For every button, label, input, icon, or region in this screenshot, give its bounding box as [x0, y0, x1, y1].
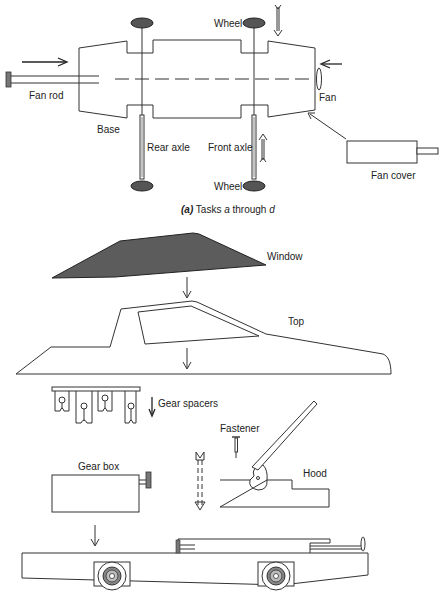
gear-box-body: [52, 475, 139, 512]
fastener-part: Fastener: [220, 423, 260, 458]
label-fan-rod: Fan rod: [29, 90, 63, 101]
fan-cover: [347, 141, 438, 163]
fan-rod-knob: [6, 72, 11, 87]
arrow-down-window: [183, 277, 191, 298]
rear-wheel-bottom: [131, 181, 153, 191]
label-fan-cover: Fan cover: [371, 170, 416, 181]
gear-box-knob: [146, 472, 151, 488]
fan-rod: [6, 72, 99, 87]
car-wheel-front: [258, 562, 294, 590]
car-wheel-rear: [94, 562, 130, 590]
label-rear-axle: Rear axle: [147, 142, 190, 153]
label-fastener: Fastener: [220, 423, 260, 434]
front-wheel-bottom: [243, 181, 265, 191]
front-wheel-top: [243, 18, 265, 28]
arrow-down-gear-spacers: [149, 397, 155, 416]
car-fan-icon: [361, 537, 365, 551]
label-gear-box: Gear box: [78, 461, 119, 472]
arrow-left-fan: [321, 60, 342, 68]
label-window: Window: [267, 251, 303, 262]
arrow-up-front-axle: [259, 134, 267, 162]
window-shape: [52, 233, 266, 278]
top-window-opening: [138, 306, 259, 344]
label-top: Top: [288, 316, 305, 327]
label-front-axle: Front axle: [208, 142, 253, 153]
window-part: Window: [52, 233, 303, 298]
label-wheel-top: Wheel: [214, 18, 242, 29]
gear-spacers-part: Gear spacers: [52, 387, 218, 423]
fan-icon: [317, 68, 322, 90]
arrow-right-fan-rod: [22, 58, 67, 66]
base-assembly: Fan rod Base Rear axle Front axle Wheel …: [6, 5, 438, 215]
arrow-down-wheel: [274, 5, 282, 36]
hood-arm: [252, 401, 317, 470]
car-chassis: [22, 553, 368, 585]
arrow-down-top: [183, 348, 191, 369]
assembled-car: [22, 537, 368, 590]
arrow-down-hollow-center: [195, 452, 205, 510]
arrow-fan-cover: [308, 113, 346, 139]
caption-part-a: (a) Tasks a through d: [181, 204, 275, 215]
arrow-down-gear-box: [91, 525, 99, 546]
top-part: Top: [16, 301, 391, 374]
diagram-canvas: Fan rod Base Rear axle Front axle Wheel …: [0, 0, 440, 600]
caption-letter: (a): [181, 204, 194, 215]
label-base: Base: [97, 124, 120, 135]
gear-box-part: Gear box: [52, 461, 151, 546]
fan-cover-nozzle: [417, 148, 438, 154]
assembly-diagram: Fan rod Base Rear axle Front axle Wheel …: [0, 0, 440, 600]
fan-cover-body: [347, 141, 417, 163]
label-wheel-bottom: Wheel: [214, 181, 242, 192]
label-hood: Hood: [303, 468, 327, 479]
rear-wheel-top: [131, 18, 153, 28]
hood-base: [220, 480, 329, 507]
label-fan: Fan: [319, 92, 336, 103]
gear-spacers-bar: [52, 387, 140, 391]
label-gear-spacers: Gear spacers: [158, 398, 218, 409]
